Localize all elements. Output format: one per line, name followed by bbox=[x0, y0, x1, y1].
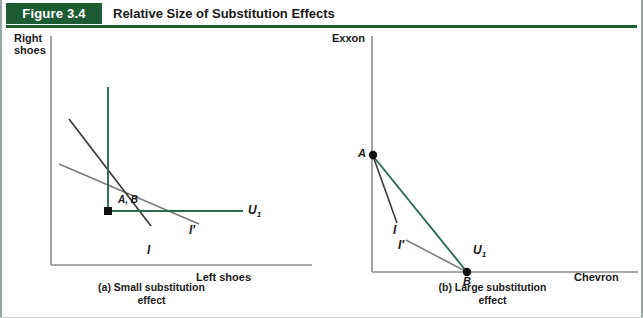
panel-a-indifference-curve-label-sub: 1 bbox=[257, 210, 261, 219]
panel-b-budget-line-new-label: I′ bbox=[398, 239, 404, 251]
panel-b-point-marker-a bbox=[369, 151, 377, 159]
panel-b-plot bbox=[320, 28, 643, 318]
panel-small-substitution-effect: Right shoes Left shoes A, B U1 I′ I (a) … bbox=[0, 28, 320, 318]
panel-b-indifference-curve-label-sub: 1 bbox=[482, 250, 486, 259]
panel-a-point-label-ab: A, B bbox=[118, 194, 138, 205]
panel-a-budget-line-new-label: I′ bbox=[189, 224, 195, 236]
panel-b-point-label-a: A bbox=[358, 148, 366, 159]
panel-a-plot bbox=[0, 28, 320, 318]
panel-b-indifference-curve-label-text: U bbox=[473, 243, 482, 257]
figure-container: Figure 3.4 Relative Size of Substitution… bbox=[0, 0, 643, 318]
panel-a-budget-line-initial-label: I bbox=[147, 244, 150, 256]
figure-number-badge: Figure 3.4 bbox=[6, 3, 102, 24]
panel-a-indifference-curve bbox=[108, 87, 243, 211]
panel-a-caption: (a) Small substitution effect bbox=[44, 281, 259, 307]
panel-b-budget-line-new bbox=[406, 240, 467, 272]
panel-a-indifference-curve-label: U1 bbox=[248, 204, 261, 221]
panel-b-budget-line-initial-label: I bbox=[393, 224, 396, 236]
figure-title: Relative Size of Substitution Effects bbox=[113, 4, 335, 23]
panel-large-substitution-effect: Exxon Chevron A B I I′ U1 (b) Large subs… bbox=[320, 28, 643, 318]
panel-a-point-marker-ab bbox=[104, 207, 112, 215]
panel-b-caption: (b) Large substitution effect bbox=[385, 281, 600, 307]
figure-header: Figure 3.4 Relative Size of Substitution… bbox=[0, 0, 643, 28]
panel-b-budget-line-initial bbox=[373, 156, 397, 223]
panel-b-indifference-curve-label: U1 bbox=[473, 244, 486, 261]
panel-a-indifference-curve-label-text: U bbox=[248, 203, 257, 217]
panel-b-indifference-curve bbox=[373, 156, 467, 272]
